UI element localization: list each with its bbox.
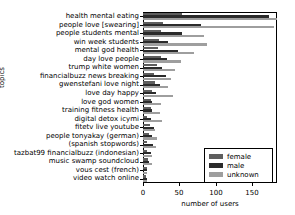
y-axis-tick-label: day love people bbox=[83, 55, 139, 64]
y-axis-tick-mark bbox=[140, 179, 143, 180]
y-axis-tick-mark bbox=[140, 50, 143, 51]
bar-unknown bbox=[143, 35, 204, 37]
y-axis-tick-mark bbox=[140, 76, 143, 77]
bar-unknown bbox=[143, 52, 194, 54]
legend-label-unknown: unknown bbox=[227, 171, 259, 179]
y-axis-tick-mark bbox=[140, 127, 143, 128]
y-axis-tick-mark bbox=[140, 153, 143, 154]
x-axis-tick-label: 150 bbox=[245, 189, 258, 197]
y-axis-tick-label: training fitness health bbox=[62, 106, 139, 115]
y-axis-label: topics bbox=[0, 67, 6, 88]
bar-unknown bbox=[143, 146, 156, 148]
bar-unknown bbox=[143, 172, 147, 174]
legend-label-female: female bbox=[227, 153, 251, 161]
y-axis-tick-mark bbox=[140, 102, 143, 103]
legend-swatch-female-icon bbox=[209, 154, 223, 159]
legend-item-female: female bbox=[209, 152, 268, 161]
bar-unknown bbox=[143, 112, 160, 114]
x-axis-tick-label: 50 bbox=[175, 189, 184, 197]
bar-unknown bbox=[143, 95, 173, 97]
y-axis-tick-label: gwenstefani love night bbox=[59, 80, 139, 89]
y-axis-tick-label: fitetv live youtube bbox=[75, 123, 139, 132]
y-axis-tick-label: financialbuzz news breaking bbox=[40, 72, 139, 81]
y-axis-tick-mark bbox=[140, 16, 143, 17]
bar-unknown bbox=[143, 129, 155, 131]
bar-unknown bbox=[143, 180, 147, 182]
legend-item-unknown: unknown bbox=[209, 170, 268, 179]
x-axis-tick-label: 0 bbox=[141, 189, 145, 197]
bar-chart-figure: topics health mental eatingpeople love [… bbox=[0, 0, 295, 215]
y-axis-tick-mark bbox=[140, 85, 143, 86]
y-axis-tick-label: vous cest (french) bbox=[76, 166, 139, 175]
y-axis-tick-mark bbox=[140, 59, 143, 60]
bar-unknown bbox=[143, 163, 152, 165]
y-axis-tick-label: (spanish stopwords) bbox=[68, 140, 139, 149]
bar-unknown bbox=[143, 155, 152, 157]
x-axis-tick-mark bbox=[179, 183, 180, 186]
x-axis-tick-mark bbox=[216, 183, 217, 186]
x-axis-tick-mark bbox=[252, 183, 253, 186]
y-axis-tick-label: mental god health bbox=[75, 46, 139, 55]
bar-unknown bbox=[143, 86, 168, 88]
y-axis-tick-label: tazbat99 financialbuzz (indonesian) bbox=[14, 149, 139, 158]
bar-unknown bbox=[143, 120, 162, 122]
y-axis-tick-label: love god women bbox=[81, 98, 139, 107]
x-axis-tick-label: 100 bbox=[209, 189, 222, 197]
bar-unknown bbox=[143, 69, 175, 71]
y-axis-tick-label: win week students bbox=[74, 38, 139, 47]
y-axis-tick-mark bbox=[140, 119, 143, 120]
x-axis-tick-mark bbox=[143, 183, 144, 186]
legend-item-male: male bbox=[209, 161, 268, 170]
bar-unknown bbox=[143, 43, 207, 45]
legend-label-male: male bbox=[227, 162, 244, 170]
y-axis-tick-mark bbox=[140, 162, 143, 163]
y-axis-tick-mark bbox=[140, 110, 143, 111]
y-axis-tick-mark bbox=[140, 25, 143, 26]
y-axis-tick-label: people love [swearing] bbox=[59, 21, 139, 30]
x-axis-label: number of users bbox=[143, 200, 277, 208]
bar-unknown bbox=[143, 60, 181, 62]
y-axis-tick-label: trump white women bbox=[69, 63, 140, 72]
bar-unknown bbox=[143, 137, 157, 139]
y-axis-tick-mark bbox=[140, 136, 143, 137]
y-axis-tick-mark bbox=[140, 170, 143, 171]
y-axis-tick-label: music swamp soundcloud bbox=[49, 157, 139, 166]
y-axis-tick-mark bbox=[140, 33, 143, 34]
y-axis-tick-mark bbox=[140, 93, 143, 94]
y-axis-tick-label: digital detox icymi bbox=[74, 115, 139, 124]
y-axis-tick-label: health mental eating bbox=[66, 12, 139, 21]
y-axis-tick-label: video watch online bbox=[73, 174, 139, 183]
y-axis-tick-mark bbox=[140, 145, 143, 146]
bar-unknown bbox=[143, 78, 171, 80]
y-axis-tick-mark bbox=[140, 42, 143, 43]
bar-unknown bbox=[143, 18, 277, 20]
y-axis-tick-label: people students mental bbox=[56, 29, 139, 38]
legend: female male unknown bbox=[204, 148, 273, 183]
y-axis-tick-mark bbox=[140, 68, 143, 69]
y-axis-tick-label: love day happy bbox=[85, 89, 139, 98]
bar-unknown bbox=[143, 103, 161, 105]
legend-swatch-male-icon bbox=[209, 163, 223, 168]
bar-unknown bbox=[143, 26, 274, 28]
legend-swatch-unknown-icon bbox=[209, 172, 223, 177]
y-axis-tick-label: people tonyakay (german) bbox=[46, 132, 139, 141]
